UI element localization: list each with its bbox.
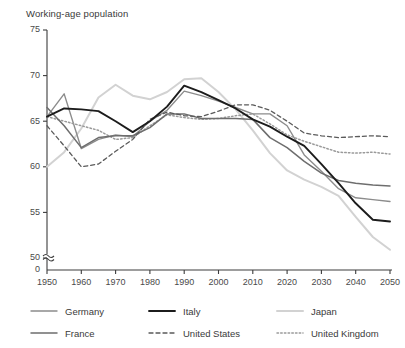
y-tick-label: 55	[30, 207, 40, 217]
legend-item-united-kingdom[interactable]: United Kingdom	[276, 328, 400, 339]
legend-item-united-states[interactable]: United States	[148, 328, 276, 339]
legend-swatch-italy	[148, 306, 176, 316]
legend-label-italy: Italy	[183, 306, 200, 317]
y-tick-label: 65	[30, 116, 40, 126]
legend-label-france: France	[65, 328, 95, 339]
legend-item-germany[interactable]: Germany	[30, 306, 148, 317]
legend-swatch-japan	[276, 306, 304, 316]
legend-swatch-united-states	[148, 328, 176, 338]
chart-legend: GermanyItalyJapanFranceUnited StatesUnit…	[30, 300, 400, 344]
y-tick-label: 50	[30, 252, 40, 262]
legend-item-japan[interactable]: Japan	[276, 306, 400, 317]
line-chart-plot: 5055606570750195019601970198019902000201…	[0, 0, 405, 300]
legend-label-japan: Japan	[311, 306, 337, 317]
x-tick-label: 2000	[208, 277, 228, 287]
legend-label-united-kingdom: United Kingdom	[311, 328, 379, 339]
y-tick-label: 70	[30, 70, 40, 80]
series-line-germany	[47, 91, 390, 201]
x-tick-label: 2030	[311, 277, 331, 287]
legend-item-france[interactable]: France	[30, 328, 148, 339]
y-tick-label: 75	[30, 24, 40, 34]
x-tick-label: 2020	[277, 277, 297, 287]
x-tick-label: 1990	[174, 277, 194, 287]
y-tick-label-zero: 0	[35, 264, 40, 274]
legend-label-united-states: United States	[183, 328, 240, 339]
legend-swatch-united-kingdom	[276, 328, 304, 338]
series-line-united-kingdom	[47, 114, 390, 154]
y-tick-label: 60	[30, 161, 40, 171]
series-line-france	[47, 108, 390, 186]
x-tick-label: 2050	[380, 277, 400, 287]
chart-container: Working-age population 50556065707501950…	[0, 0, 405, 348]
x-tick-label: 1980	[140, 277, 160, 287]
x-tick-label: 2010	[243, 277, 263, 287]
x-tick-label: 1950	[37, 277, 57, 287]
legend-swatch-germany	[30, 306, 58, 316]
legend-label-germany: Germany	[65, 306, 104, 317]
legend-item-italy[interactable]: Italy	[148, 306, 276, 317]
legend-swatch-france	[30, 328, 58, 338]
series-line-italy	[47, 86, 390, 222]
series-line-united-states	[47, 105, 390, 167]
x-tick-label: 2040	[346, 277, 366, 287]
x-tick-label: 1970	[106, 277, 126, 287]
x-tick-label: 1960	[71, 277, 91, 287]
